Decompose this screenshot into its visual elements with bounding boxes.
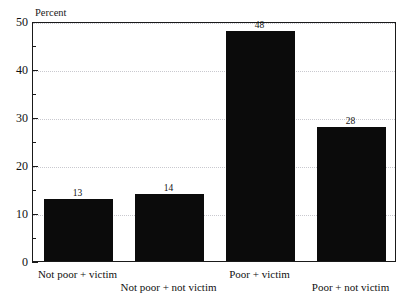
- y-tick-major-50: [32, 22, 38, 23]
- bar: [135, 194, 204, 261]
- y-tick-label-30: 30: [2, 112, 28, 124]
- y-tick-major-40: [32, 70, 38, 71]
- x-category-label: Not poor + not victim: [99, 281, 239, 294]
- y-tick-minor-45: [32, 46, 36, 47]
- bar-chart-figure: Percent 01020304050 Not poor + victimNot…: [0, 0, 417, 299]
- y-tick-major-30: [32, 118, 38, 119]
- y-tick-major-20: [32, 166, 38, 167]
- bar-value-label: 48: [230, 20, 290, 30]
- bar-value-label: 28: [321, 116, 381, 126]
- y-tick-label-10: 10: [2, 208, 28, 220]
- y-tick-minor-35: [32, 94, 36, 95]
- y-tick-label-40: 40: [2, 64, 28, 76]
- bar-value-label: 13: [48, 188, 108, 198]
- y-axis-unit-label: Percent: [35, 7, 67, 19]
- cropped-title-fragment: [0, 0, 417, 6]
- x-category-label: Poor + not victim: [281, 281, 417, 294]
- y-tick-minor-5: [32, 238, 36, 239]
- x-category-label: Not poor + victim: [8, 268, 148, 281]
- gridline-40: [33, 71, 395, 72]
- gridline-50: [33, 23, 395, 24]
- y-tick-label-20: 20: [2, 160, 28, 172]
- y-tick-minor-15: [32, 190, 36, 191]
- bar: [44, 199, 113, 261]
- x-category-label: Poor + victim: [190, 268, 330, 281]
- y-tick-major-10: [32, 214, 38, 215]
- y-tick-major-0: [32, 262, 38, 263]
- plot-area: [32, 22, 396, 262]
- bar: [226, 31, 295, 261]
- y-tick-label-0: 0: [2, 256, 28, 268]
- y-tick-minor-25: [32, 142, 36, 143]
- y-tick-label-50: 50: [2, 16, 28, 28]
- bar-value-label: 14: [139, 183, 199, 193]
- bar: [317, 127, 386, 261]
